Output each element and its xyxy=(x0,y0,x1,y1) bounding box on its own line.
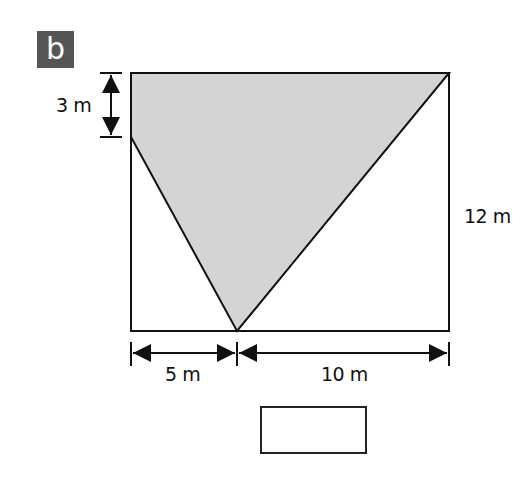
label-12m: 12 m xyxy=(464,205,511,227)
answer-box[interactable] xyxy=(260,406,367,454)
label-5m: 5 m xyxy=(165,363,200,385)
dimension-3m xyxy=(100,73,122,137)
label-10m: 10 m xyxy=(321,363,368,385)
shaded-triangle xyxy=(131,73,449,331)
label-3m: 3 m xyxy=(56,94,91,116)
